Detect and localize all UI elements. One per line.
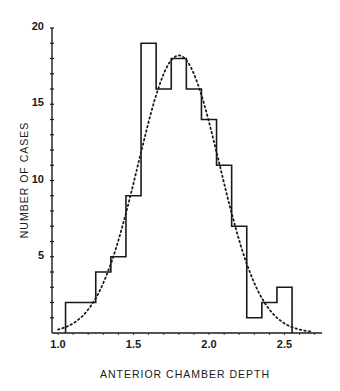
y-tick-label: 5 <box>20 249 44 261</box>
x-tick-label: 2.5 <box>270 338 300 350</box>
y-tick-label: 15 <box>20 96 44 108</box>
x-tick-label: 1.5 <box>119 338 149 350</box>
y-axis-label: NUMBER OF CASES <box>18 122 30 239</box>
y-tick-label: 20 <box>20 20 44 32</box>
x-axis-label: ANTERIOR CHAMBER DEPTH <box>0 368 340 380</box>
x-tick-label: 2.0 <box>194 338 224 350</box>
x-tick-label: 1.0 <box>43 338 73 350</box>
histogram-chart <box>0 0 340 391</box>
